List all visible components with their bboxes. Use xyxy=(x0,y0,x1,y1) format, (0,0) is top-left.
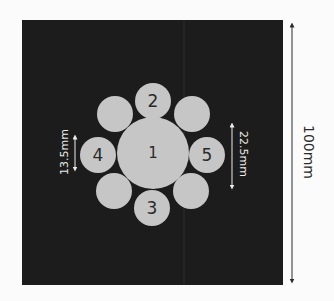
rod-ne xyxy=(174,96,210,132)
rod-4-label: 4 xyxy=(93,145,104,165)
rod-2-label: 2 xyxy=(148,91,159,111)
rod-arrangement-diagram: 12345 100mm 13.5mm 22.5mm xyxy=(0,0,334,301)
rod-5-label: 5 xyxy=(202,145,213,165)
small-rod-diameter-label: 13.5mm xyxy=(58,129,71,175)
plate-size-label: 100mm xyxy=(301,125,317,179)
rod-se xyxy=(173,173,209,209)
rod-sw xyxy=(96,173,132,209)
rod-nw xyxy=(97,96,133,132)
rod-3-label: 3 xyxy=(147,198,158,218)
rod-1-label: 1 xyxy=(148,144,158,162)
large-rod-diameter-label: 22.5mm xyxy=(237,131,250,177)
